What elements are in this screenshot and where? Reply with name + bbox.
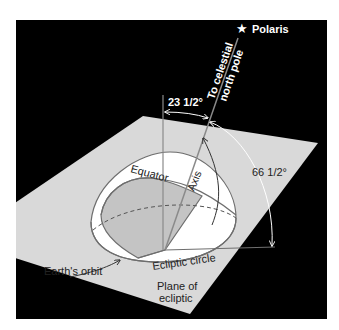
polaris-label: Polaris [252, 23, 289, 35]
earths-orbit-label: Earth's orbit [44, 265, 102, 277]
earth-axis-tilt-diagram: ★ Polaris To celestial north pole 23 1/2… [0, 0, 339, 330]
plane-label-line2: ecliptic [159, 292, 193, 304]
star-icon: ★ [236, 21, 248, 36]
plane-label-line1: Plane of [157, 280, 198, 292]
angle-small-label: 23 1/2° [168, 96, 203, 108]
angle-large-label: 66 1/2° [252, 166, 287, 178]
